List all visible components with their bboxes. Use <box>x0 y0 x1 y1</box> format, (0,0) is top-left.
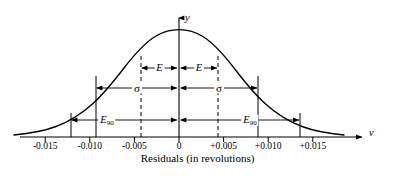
tick-label-5: +0.010 <box>255 141 282 151</box>
tick-label-3: 0 <box>177 141 182 151</box>
band-label-sigma-right: σ <box>214 83 224 94</box>
band-label-E90-left: E90 <box>98 115 115 126</box>
normal-distribution-figure: y v E E σ σ E90 E90 Residuals (in revolu… <box>0 0 395 179</box>
band-label-E90-left-sub: 90 <box>107 119 114 127</box>
y-axis-label: y <box>185 12 190 23</box>
tick-label-6: +0.015 <box>299 141 326 151</box>
tick-label-0: -0.015 <box>33 141 58 151</box>
band-label-E-left: E <box>154 63 164 74</box>
tick-label-4: +0.005 <box>210 141 237 151</box>
tick-label-1: -0.010 <box>78 141 103 151</box>
x-axis-label: v <box>369 127 374 138</box>
band-label-E90-right-sub: 90 <box>250 119 257 127</box>
tick-label-2: -0.005 <box>122 141 147 151</box>
axis-caption: Residuals (in revolutions) <box>0 152 395 164</box>
band-label-E-right: E <box>194 63 204 74</box>
band-label-E90-right: E90 <box>241 115 258 126</box>
band-label-sigma-left: σ <box>132 83 142 94</box>
